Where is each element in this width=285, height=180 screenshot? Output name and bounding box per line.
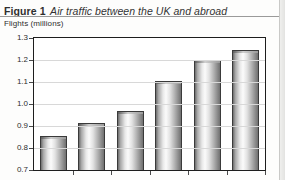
- y-tick-mark: [29, 38, 33, 39]
- gridline: [34, 104, 266, 105]
- chart-area: [0, 0, 285, 180]
- y-tick-mark: [29, 126, 33, 127]
- y-tick-mark: [29, 60, 33, 61]
- bar-top-cap: [41, 137, 66, 139]
- x-tick-mark: [150, 171, 151, 175]
- gridline: [34, 82, 266, 83]
- y-tick-label: 0.8: [0, 144, 28, 152]
- y-tick-label: 0.9: [0, 122, 28, 130]
- gridline: [34, 60, 266, 61]
- gridline: [34, 126, 266, 127]
- x-tick-mark: [227, 171, 228, 175]
- bar: [78, 123, 105, 172]
- page-edge-line: [279, 0, 280, 180]
- figure-page: Figure 1 Air traffic between the UK and …: [0, 0, 285, 180]
- y-tick-label: 0.7: [0, 166, 28, 174]
- bar: [117, 111, 144, 171]
- x-tick-mark: [265, 171, 266, 175]
- x-tick-mark: [111, 171, 112, 175]
- bar: [40, 136, 67, 171]
- y-tick-mark: [29, 170, 33, 171]
- y-tick-label: 1.3: [0, 34, 28, 42]
- x-tick-mark: [73, 171, 74, 175]
- x-tick-mark: [188, 171, 189, 175]
- y-tick-mark: [29, 104, 33, 105]
- y-tick-label: 1.0: [0, 100, 28, 108]
- bar-top-cap: [118, 112, 143, 114]
- y-tick-label: 1.1: [0, 78, 28, 86]
- bar-top-cap: [233, 51, 258, 53]
- bar-top-cap: [195, 61, 220, 63]
- bar: [232, 50, 259, 171]
- bar: [194, 60, 221, 171]
- y-tick-mark: [29, 148, 33, 149]
- y-tick-mark: [29, 82, 33, 83]
- gridline: [34, 148, 266, 149]
- y-tick-label: 1.2: [0, 56, 28, 64]
- plot-frame: [33, 37, 266, 171]
